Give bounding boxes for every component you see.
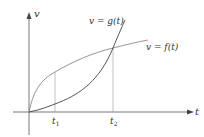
curve-g-label: v = g(t)	[89, 16, 124, 26]
curve-f-label: v = f(t)	[146, 42, 179, 52]
velocity-diagram: v t v = g(t) v = f(t) t1 t2	[0, 0, 204, 137]
x-axis-label: t	[195, 106, 200, 117]
y-axis-label: v	[34, 8, 40, 19]
curve-g	[29, 20, 125, 112]
x-axis-arrow-icon	[187, 110, 194, 115]
tick-label-t2: t2	[110, 116, 118, 127]
tick-label-t1: t1	[52, 116, 59, 127]
curve-f	[29, 40, 148, 112]
y-axis-arrow-icon	[27, 12, 32, 19]
